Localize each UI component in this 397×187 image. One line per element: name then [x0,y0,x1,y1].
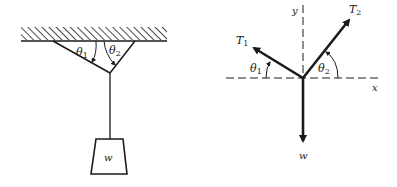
weight-label: w [104,152,113,163]
theta1-arc-icon [92,41,96,62]
w-force-label: w [299,150,308,161]
free-body-diagram: x y T1 T2 w θ1 θ2 [226,3,381,161]
y-axis-label: y [291,5,298,16]
theta2-fbd-label: θ2 [318,62,330,76]
theta2-label: θ2 [109,44,121,58]
theta1-arc-fbd-icon [266,62,270,78]
theta1-label: θ1 [76,46,88,60]
x-axis-label: x [372,82,378,93]
ceiling-hatch [21,27,167,40]
T2-label: T2 [349,3,361,17]
hanging-weight-setup: θ1 θ2 w [21,27,167,174]
physics-diagram: θ1 θ2 w x y T1 T2 w θ1 θ2 [0,0,397,187]
theta1-fbd-label: θ1 [250,62,262,76]
T1-label: T1 [236,34,248,48]
